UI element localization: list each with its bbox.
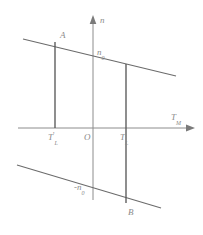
lower-characteristic-line: [17, 165, 161, 208]
tm-axis-label-subscript: M: [176, 120, 181, 126]
negative-n-zero-label: -n0: [74, 183, 85, 194]
negative-n-zero-base: -n: [74, 182, 82, 192]
t-l-label: TL: [120, 133, 128, 144]
right-arrow-icon: [186, 125, 195, 132]
up-arrow-icon: [90, 15, 97, 24]
t-l-prime-label: T'L: [48, 133, 58, 144]
negative-n-zero-subscript: 0: [82, 190, 85, 196]
tm-axis-label: TM: [171, 113, 181, 124]
horizontal-axis-group: [18, 125, 195, 132]
n-zero-base: n: [97, 47, 102, 57]
t-l-subscript: L: [125, 140, 128, 146]
t-l-prime-subscript: L: [54, 140, 57, 146]
prime-mark: ': [53, 131, 54, 140]
n-zero-label: n0: [97, 48, 105, 59]
speed-torque-figure: n TM A B n0 -n0 O T'L TL: [0, 0, 203, 235]
point-b-label: B: [128, 208, 134, 217]
n-zero-subscript: 0: [102, 55, 105, 61]
origin-label: O: [84, 133, 91, 142]
n-axis-label: n: [100, 16, 105, 25]
vertical-axis-group: [90, 15, 97, 200]
point-a-label: A: [60, 31, 66, 40]
